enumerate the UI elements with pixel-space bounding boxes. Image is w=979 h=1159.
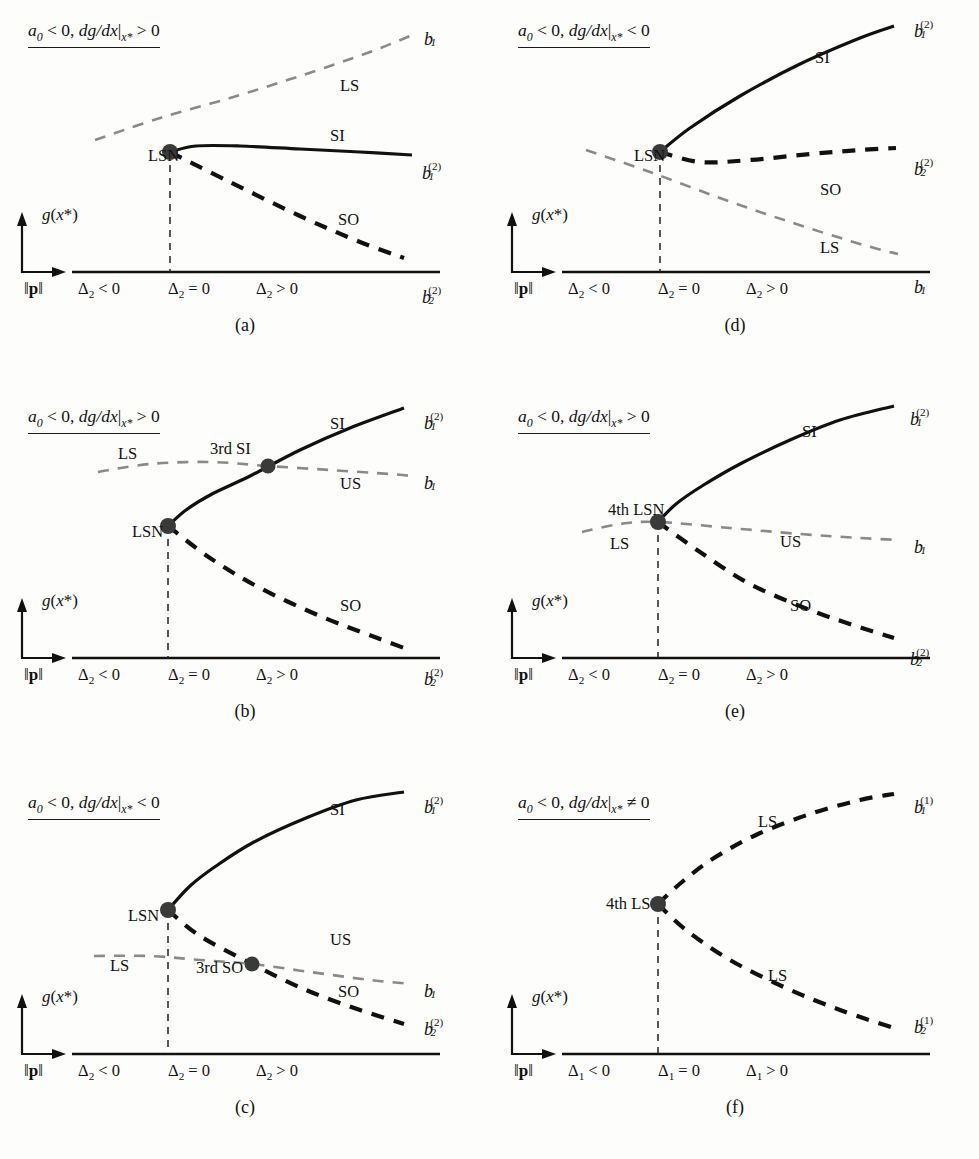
region-label-0: Δ1 < 0 (568, 1063, 610, 1083)
curve-b1 (582, 522, 900, 540)
panel-caption-c: (c) (0, 1098, 490, 1116)
panel-a: a0 < 0, dg/dx|x* > 0LSSISOLSNb1b1(2)b2(2… (0, 0, 490, 386)
stability-label-ls-0: LS (758, 814, 777, 831)
y-axis-arrowhead (17, 598, 27, 612)
axis-corner (512, 224, 546, 272)
region-label-0: Δ2 < 0 (568, 667, 610, 687)
stability-label-ls-2: LS (820, 240, 839, 257)
stability-label-si-1: SI (330, 128, 345, 145)
point-label-lsn: LSN (634, 148, 665, 165)
stability-label-si-1: SI (330, 416, 345, 433)
curve-b1(2) (170, 145, 412, 155)
region-label-2: Δ2 > 0 (256, 667, 298, 687)
panel-f: a0 < 0, dg/dx|x* ≠ 0LSLS4th LSb1(1)b2(1)… (490, 772, 979, 1159)
x-axis-label: ‖p‖ (24, 666, 43, 683)
panel-header-e: a0 < 0, dg/dx|x* > 0 (518, 408, 650, 434)
region-label-0: Δ2 < 0 (568, 281, 610, 301)
curve-label-b1(2): b1(2) (914, 22, 979, 40)
region-label-0: Δ2 < 0 (78, 281, 120, 301)
x-axis-arrowhead (542, 1049, 556, 1059)
stability-label-si-0: SI (815, 50, 830, 67)
curve-label-b2(2): b2(2) (914, 160, 979, 178)
x-axis-arrowhead (52, 653, 66, 663)
x-axis-label: ‖p‖ (24, 280, 43, 297)
x-axis-label: ‖p‖ (514, 280, 533, 297)
stability-label-ls-0: LS (340, 78, 359, 95)
stability-label-so-1: SO (820, 182, 841, 199)
stability-label-so-2: SO (338, 212, 359, 229)
bifurcation-point-marker (160, 902, 176, 918)
curve-label-b1: b1 (914, 278, 979, 296)
y-axis-label: g(x*) (532, 988, 568, 1005)
stability-label-ls-1: LS (610, 536, 629, 553)
axis-corner (22, 1006, 56, 1054)
panel-caption-b: (b) (0, 702, 490, 720)
crossing-point-marker (245, 957, 260, 972)
panel-d: a0 < 0, dg/dx|x* < 0SISOLSLSNb1(2)b2(2)b… (490, 0, 979, 386)
point-label-3rd-so: 3rd SO (196, 960, 243, 977)
y-axis-label: g(x*) (42, 206, 78, 223)
x-axis-arrowhead (542, 653, 556, 663)
curve-label-b2(1): b2(1) (914, 1018, 979, 1036)
x-axis-arrowhead (52, 1049, 66, 1059)
stability-label-si-0: SI (802, 424, 817, 441)
curve-b1(2) (660, 26, 894, 152)
stability-label-us-2: US (780, 534, 801, 551)
y-axis-label: g(x*) (532, 206, 568, 223)
panel-e: a0 < 0, dg/dx|x* > 0SILSUSSO4th LSNb1(2)… (490, 386, 979, 772)
y-axis-arrowhead (507, 994, 517, 1008)
stability-label-ls-1: LS (110, 958, 129, 975)
y-axis-label: g(x*) (42, 592, 78, 609)
axis-corner (512, 1006, 546, 1054)
axis-corner (512, 610, 546, 658)
x-axis-label: ‖p‖ (24, 1062, 43, 1079)
region-label-1: Δ2 = 0 (168, 667, 210, 687)
stability-label-ls-1: LS (768, 968, 787, 985)
curve-label-b1(2): b1(2) (910, 410, 979, 428)
curve-b1 (586, 150, 898, 254)
panel-header-c: a0 < 0, dg/dx|x* < 0 (28, 794, 160, 820)
stability-label-us-2: US (330, 932, 351, 949)
panel-caption-e: (e) (490, 702, 979, 720)
x-axis-arrowhead (542, 267, 556, 277)
region-label-2: Δ2 > 0 (256, 1063, 298, 1083)
figure-grid: a0 < 0, dg/dx|x* > 0LSSISOLSNb1b1(2)b2(2… (0, 0, 979, 1159)
stability-label-ls-0: LS (118, 446, 137, 463)
curve-b2(2) (658, 522, 894, 638)
region-label-2: Δ2 > 0 (256, 281, 298, 301)
region-label-1: Δ1 = 0 (658, 1063, 700, 1083)
region-label-1: Δ2 = 0 (168, 281, 210, 301)
region-label-0: Δ2 < 0 (78, 667, 120, 687)
panel-header-b: a0 < 0, dg/dx|x* > 0 (28, 408, 160, 434)
point-label-4th-ls: 4th LS (606, 896, 650, 913)
panel-header-f: a0 < 0, dg/dx|x* ≠ 0 (518, 794, 650, 820)
panel-caption-a: (a) (0, 316, 490, 334)
panel-b: a0 < 0, dg/dx|x* > 0LSSIUSSO3rd SILSNb1(… (0, 386, 490, 772)
x-axis-label: ‖p‖ (514, 1062, 533, 1079)
curve-b1(2) (168, 792, 404, 910)
x-axis-arrowhead (52, 267, 66, 277)
point-label-4th-lsn: 4th LSN (608, 502, 664, 519)
stability-label-so-3: SO (340, 598, 361, 615)
x-axis-label: ‖p‖ (514, 666, 533, 683)
curve-b1(1) (658, 794, 894, 904)
region-label-1: Δ2 = 0 (168, 1063, 210, 1083)
point-label-lsn: LSN (128, 908, 159, 925)
region-label-2: Δ2 > 0 (746, 281, 788, 301)
point-label-3rd-si: 3rd SI (210, 441, 251, 458)
panel-caption-d: (d) (490, 316, 979, 334)
axis-corner (22, 610, 56, 658)
stability-label-so-3: SO (338, 984, 359, 1001)
region-label-2: Δ1 > 0 (746, 1063, 788, 1083)
curve-b2(2) (168, 526, 404, 648)
stability-label-si-0: SI (330, 802, 345, 819)
curve-label-b1(1): b1(1) (914, 798, 979, 816)
y-axis-arrowhead (507, 212, 517, 226)
curve-b2(2) (660, 148, 896, 162)
curve-b2(2) (170, 152, 404, 258)
panel-header-a: a0 < 0, dg/dx|x* > 0 (28, 22, 160, 48)
crossing-point-marker (261, 459, 276, 474)
panel-header-d: a0 < 0, dg/dx|x* < 0 (518, 22, 650, 48)
curve-label-b2(2): b2(2) (910, 650, 979, 668)
y-axis-label: g(x*) (532, 592, 568, 609)
